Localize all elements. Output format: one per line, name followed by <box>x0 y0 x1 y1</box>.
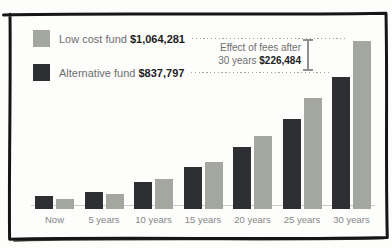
alternative-fund-bar <box>283 119 301 209</box>
bar-group: Now <box>35 196 74 206</box>
bar-pair <box>35 196 74 209</box>
bar-pair <box>134 179 173 209</box>
x-axis-label: 10 years <box>135 214 171 225</box>
alternative-fund-bar <box>233 147 251 209</box>
x-axis-label: 30 years <box>333 214 369 225</box>
bar-group: 20 years <box>233 136 272 206</box>
x-axis-label: Now <box>45 214 64 225</box>
low-cost-fund-bar <box>56 199 74 209</box>
low-cost-fund-bar <box>353 41 371 209</box>
x-axis-label: 15 years <box>185 214 221 225</box>
alternative-fund-bar <box>184 167 202 209</box>
low-cost-fund-bar <box>205 162 223 209</box>
bar-pair <box>85 192 124 209</box>
bar-pair <box>283 98 322 209</box>
bar-pair <box>184 162 223 209</box>
x-axis-label: 5 years <box>88 214 119 225</box>
bar-group: 25 years <box>283 98 322 206</box>
alternative-fund-bar <box>134 182 152 209</box>
alternative-fund-bar <box>35 196 53 209</box>
bar-pair <box>332 41 371 209</box>
bar-pair <box>233 136 272 209</box>
alternative-fund-bar <box>85 192 103 209</box>
alternative-fund-bar <box>332 77 350 209</box>
bar-group: 30 years <box>332 41 371 206</box>
low-cost-fund-bar <box>254 136 272 209</box>
low-cost-fund-bar <box>155 179 173 209</box>
fees-comparison-chart: Low cost fund $1,064,281 Alternative fun… <box>0 0 392 248</box>
x-axis-label: 20 years <box>234 214 270 225</box>
bar-groups: Now5 years10 years15 years20 years25 yea… <box>35 34 371 206</box>
low-cost-fund-bar <box>106 194 124 209</box>
low-cost-fund-bar <box>304 98 322 209</box>
bar-group: 15 years <box>184 162 223 206</box>
bar-group: 10 years <box>134 179 173 206</box>
x-axis-label: 25 years <box>284 214 320 225</box>
bar-group: 5 years <box>85 192 124 206</box>
